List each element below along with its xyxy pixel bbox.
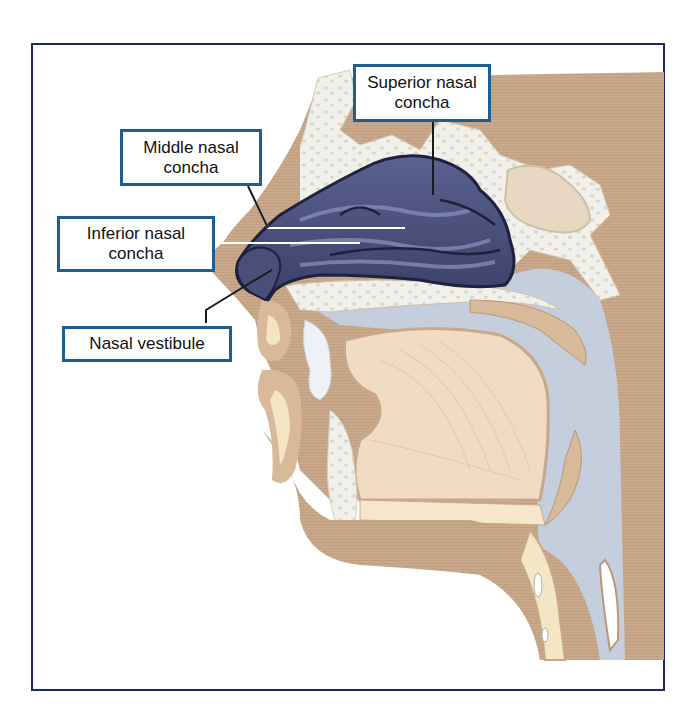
label-text-line2: concha [395,93,450,113]
label-text-line1: Nasal vestibule [89,334,204,354]
label-middle-nasal-concha: Middle nasal concha [120,129,262,186]
label-text-line2: concha [109,244,164,264]
label-superior-nasal-concha: Superior nasal concha [353,64,491,122]
label-inferior-nasal-concha: Inferior nasal concha [57,216,215,272]
label-text-line1: Middle nasal [143,138,238,158]
cartilage-gap-1 [534,573,542,597]
label-text-line2: concha [164,158,219,178]
cartilage-gap-2 [542,628,548,642]
label-nasal-vestibule: Nasal vestibule [62,326,232,362]
label-text-line1: Superior nasal [367,73,477,93]
label-text-line1: Inferior nasal [87,224,185,244]
